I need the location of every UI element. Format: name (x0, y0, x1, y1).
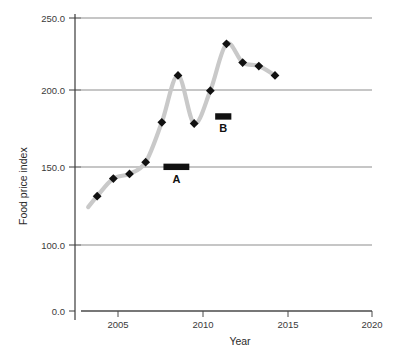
annotation-bar-a (163, 164, 189, 170)
y-axis-title: Food price index (17, 147, 29, 225)
x-tick-label-2010: 2010 (192, 319, 213, 330)
series-line-food-price-index (88, 43, 275, 207)
annotation-label-a: A (172, 173, 180, 185)
chart-canvas: 250.0 200.0 150.0 100.0 0.0 Food price i… (0, 0, 394, 358)
y-axis: 250.0 200.0 150.0 100.0 0.0 Food price i… (17, 13, 81, 321)
y-tick-label-100: 100.0 (41, 240, 65, 251)
x-tick-label-2020: 2020 (361, 319, 382, 330)
x-tick-label-2015: 2015 (277, 319, 298, 330)
annotation-label-b: B (219, 122, 227, 134)
y-tick-label-150: 150.0 (41, 162, 65, 173)
x-axis: 2005 2010 2015 2020 Year (81, 311, 383, 347)
y-tick-label-0: 0.0 (52, 306, 65, 317)
annotation-bar-b (215, 113, 231, 119)
x-axis-title: Year (229, 335, 251, 347)
grid-lines (81, 18, 372, 311)
food-price-index-chart: 250.0 200.0 150.0 100.0 0.0 Food price i… (0, 0, 394, 358)
x-tick-label-2005: 2005 (107, 319, 128, 330)
y-tick-label-200: 200.0 (41, 85, 65, 96)
y-tick-label-250: 250.0 (41, 13, 65, 24)
